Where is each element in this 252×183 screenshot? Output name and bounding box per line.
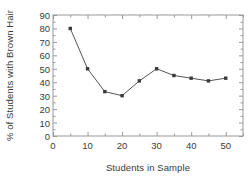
data-point-marker — [189, 76, 192, 79]
data-point-marker — [69, 27, 72, 30]
data-point-marker — [155, 67, 158, 70]
data-point-marker — [172, 74, 175, 77]
plot-area — [0, 0, 252, 183]
data-point-marker — [86, 67, 89, 70]
plot-box — [53, 15, 243, 136]
data-series — [69, 27, 228, 98]
plot-frame — [53, 15, 243, 136]
data-point-marker — [138, 79, 141, 82]
data-point-marker — [224, 76, 227, 79]
axis-ticks — [53, 15, 244, 137]
data-point-marker — [120, 94, 123, 97]
series-line — [70, 28, 225, 95]
data-point-marker — [103, 90, 106, 93]
chart-figure: % of Students with Brown Hair 0102030405… — [0, 0, 252, 183]
data-point-marker — [207, 79, 210, 82]
